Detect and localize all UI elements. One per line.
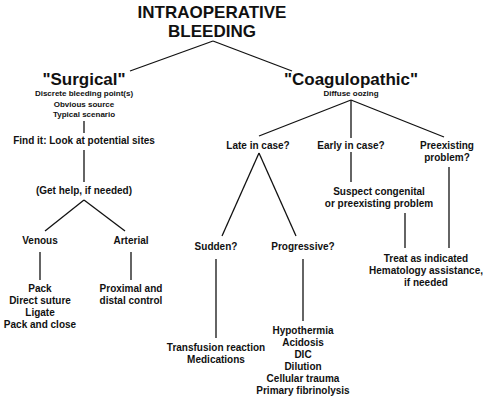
venous-node: Venous xyxy=(22,235,58,247)
arterial-actions: Proximal and distal control xyxy=(100,283,163,307)
progressive-cause: Primary fibrinolysis xyxy=(256,385,349,397)
treat-as-indicated-node: Treat as indicated Hematology assistance… xyxy=(369,253,483,289)
progressive-cause: Hypothermia xyxy=(256,325,349,337)
coagulopathic-node: "Coagulopathic" Diffuse oozing xyxy=(284,70,418,100)
arterial-node: Arterial xyxy=(113,235,148,247)
diagram-title: INTRAOPERATIVE BLEEDING xyxy=(138,3,287,41)
suspect-congenital-node: Suspect congenital or preexisting proble… xyxy=(325,186,433,210)
sudden-causes: Transfusion reaction Medications xyxy=(167,342,265,366)
surgical-label: "Surgical" xyxy=(35,70,133,89)
progressive-cause: Cellular trauma xyxy=(256,373,349,385)
treat-line: Hematology assistance, xyxy=(369,265,483,277)
venous-action: Ligate xyxy=(4,307,76,319)
surgical-detail: Typical scenario xyxy=(35,110,133,121)
venous-action: Direct suture xyxy=(4,295,76,307)
progressive-causes: Hypothermia Acidosis DIC Dilution Cellul… xyxy=(256,325,349,397)
suspect-line: or preexisting problem xyxy=(325,198,433,210)
progressive-cause: Dilution xyxy=(256,361,349,373)
suspect-line: Suspect congenital xyxy=(325,186,433,198)
venous-action: Pack xyxy=(4,283,76,295)
title-line-1: INTRAOPERATIVE xyxy=(138,3,287,22)
treat-line: if needed xyxy=(369,277,483,289)
preexisting-problem-node: Preexisting problem? xyxy=(420,140,474,164)
sudden-cause: Transfusion reaction xyxy=(167,342,265,354)
arterial-action: Proximal and xyxy=(100,283,163,295)
get-help-node: (Get help, if needed) xyxy=(36,185,132,197)
preexisting-line: Preexisting xyxy=(420,140,474,152)
late-in-case-node: Late in case? xyxy=(226,140,289,152)
find-it-node: Find it: Look at potential sites xyxy=(13,135,155,147)
venous-actions: Pack Direct suture Ligate Pack and close xyxy=(4,283,76,331)
sudden-cause: Medications xyxy=(167,354,265,366)
coagulopathic-label: "Coagulopathic" xyxy=(284,70,418,89)
progressive-cause: Acidosis xyxy=(256,337,349,349)
arterial-action: distal control xyxy=(100,295,163,307)
treat-line: Treat as indicated xyxy=(369,253,483,265)
coagulopathic-detail: Diffuse oozing xyxy=(284,89,418,100)
surgical-node: "Surgical" Discrete bleeding point(s) Ob… xyxy=(35,70,133,121)
preexisting-line: problem? xyxy=(420,152,474,164)
progressive-cause: DIC xyxy=(256,349,349,361)
surgical-detail: Discrete bleeding point(s) xyxy=(35,89,133,100)
sudden-node: Sudden? xyxy=(195,241,238,253)
venous-action: Pack and close xyxy=(4,319,76,331)
title-line-2: BLEEDING xyxy=(138,22,287,41)
surgical-detail: Obvious source xyxy=(35,100,133,111)
progressive-node: Progressive? xyxy=(271,241,334,253)
early-in-case-node: Early in case? xyxy=(317,140,384,152)
